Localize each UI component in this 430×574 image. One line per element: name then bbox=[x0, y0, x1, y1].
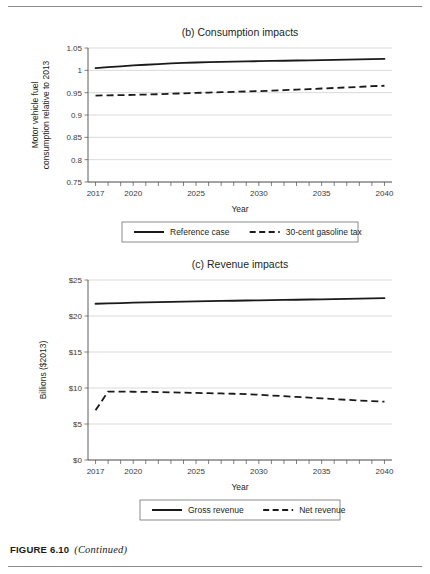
y-tick-label: 1.05 bbox=[66, 44, 82, 53]
y-tick-label: 0.95 bbox=[66, 89, 82, 98]
x-tick-label: 2035 bbox=[313, 467, 331, 476]
x-tick-label: 2020 bbox=[124, 467, 142, 476]
chart-b-svg: (b) Consumption impacts0.750.80.850.90.9… bbox=[0, 14, 430, 244]
legend-label-2: Net revenue bbox=[299, 505, 346, 515]
x-tick-label: 2020 bbox=[124, 189, 142, 198]
y-tick-label: $5 bbox=[73, 420, 82, 429]
x-tick-label: 2040 bbox=[376, 467, 394, 476]
chart-revenue-impacts: (c) Revenue impacts$0$5$10$15$20$2520172… bbox=[0, 248, 430, 538]
figure-page: (b) Consumption impacts0.750.80.850.90.9… bbox=[0, 0, 430, 574]
y-tick-label: $0 bbox=[73, 456, 82, 465]
x-tick-label: 2017 bbox=[87, 467, 105, 476]
x-tick-label: 2035 bbox=[313, 189, 331, 198]
page-rule-bottom bbox=[8, 566, 422, 567]
x-tick-label: 2017 bbox=[87, 189, 105, 198]
figure-caption-label: FIGURE 6.10 bbox=[10, 544, 69, 555]
y-axis-title: consumption relative to 2013 bbox=[41, 60, 51, 169]
x-tick-label: 2030 bbox=[250, 189, 268, 198]
figure-caption: FIGURE 6.10(Continued) bbox=[10, 544, 127, 555]
chart-consumption-impacts: (b) Consumption impacts0.750.80.850.90.9… bbox=[0, 14, 430, 244]
y-tick-label: $20 bbox=[69, 312, 83, 321]
x-tick-label: 2030 bbox=[250, 467, 268, 476]
y-tick-label: $15 bbox=[69, 348, 83, 357]
page-rule-top bbox=[8, 6, 422, 7]
series-line-1 bbox=[96, 298, 385, 304]
chart-c-svg: (c) Revenue impacts$0$5$10$15$20$2520172… bbox=[0, 248, 430, 538]
y-tick-label: 0.9 bbox=[71, 111, 83, 120]
x-tick-label: 2025 bbox=[187, 189, 205, 198]
chart-title: (c) Revenue impacts bbox=[192, 258, 288, 270]
legend-label-1: Reference case bbox=[170, 227, 230, 237]
figure-caption-continued: (Continued) bbox=[74, 544, 127, 555]
legend-label-2: 30-cent gasoline tax bbox=[286, 227, 363, 237]
series-line-1 bbox=[96, 59, 385, 68]
y-axis-title: Motor vehicle fuel bbox=[30, 82, 40, 149]
x-axis-title: Year bbox=[231, 482, 248, 492]
x-tick-label: 2040 bbox=[376, 189, 394, 198]
legend-label-1: Gross revenue bbox=[188, 505, 244, 515]
y-tick-label: $10 bbox=[69, 384, 83, 393]
series-line-2 bbox=[96, 392, 385, 411]
x-axis-title: Year bbox=[231, 204, 248, 214]
y-axis-title: Billions ($2013) bbox=[38, 341, 48, 400]
series-line-2 bbox=[96, 86, 385, 96]
y-tick-label: 0.75 bbox=[66, 178, 82, 187]
y-tick-label: 0.85 bbox=[66, 133, 82, 142]
x-tick-label: 2025 bbox=[187, 467, 205, 476]
chart-title: (b) Consumption impacts bbox=[182, 26, 299, 38]
y-tick-label: 1 bbox=[78, 66, 83, 75]
y-tick-label: $25 bbox=[69, 276, 83, 285]
y-tick-label: 0.8 bbox=[71, 156, 83, 165]
